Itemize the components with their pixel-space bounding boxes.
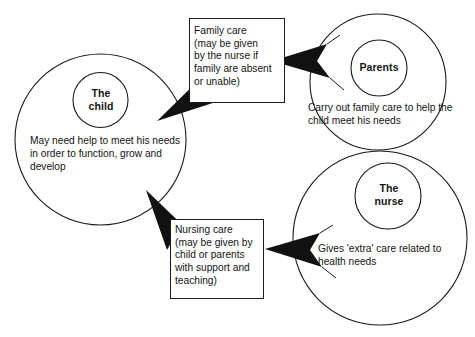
nurse-circle-title: The nurse (358, 182, 420, 208)
nurse-title-line-2: nurse (358, 195, 420, 208)
family-care-callout-text: Family care (may be given by the nurse i… (194, 25, 286, 88)
child-circle-title: The child (62, 87, 140, 113)
nurse-outer-circle (293, 151, 467, 325)
parents-circle-description: Carry out family care to help the child … (308, 102, 468, 128)
parents-circle-title: Parents (340, 61, 418, 74)
child-title-line-1: The (62, 87, 140, 100)
care-model-diagram: The child May need help to meet his need… (0, 0, 475, 337)
child-title-line-2: child (62, 100, 140, 113)
child-circle-description: May need help to meet his needs in order… (30, 135, 190, 174)
nursing-care-callout-text: Nursing care (may be given by child or p… (175, 224, 265, 287)
nurse-title-line-1: The (358, 182, 420, 195)
nurse-circle-description: Gives 'extra' care related to health nee… (318, 243, 468, 269)
parents-outer-circle (310, 14, 446, 150)
parents-title-line-1: Parents (340, 61, 418, 74)
